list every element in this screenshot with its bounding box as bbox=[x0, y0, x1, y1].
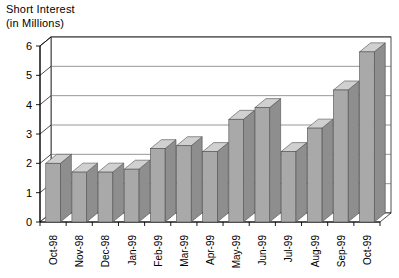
x-axis-tick-label: Dec-98 bbox=[100, 235, 111, 268]
chart-container: Short Interest (in Millions) 0123456Oct-… bbox=[0, 0, 399, 278]
bar-front-face bbox=[333, 90, 348, 222]
bar-group bbox=[333, 81, 359, 222]
bar-front-face bbox=[360, 52, 375, 222]
bar-side-face bbox=[87, 163, 98, 222]
bar-group bbox=[150, 140, 176, 222]
bar-group bbox=[98, 163, 124, 222]
x-axis-tick-label: Apr-99 bbox=[205, 235, 216, 265]
bar-group bbox=[72, 163, 98, 222]
x-axis-tick-label: Sep-99 bbox=[336, 235, 347, 268]
bar-side-face bbox=[113, 163, 124, 222]
bar-side-face bbox=[60, 154, 71, 222]
y-axis-tick-label: 0 bbox=[26, 216, 32, 228]
bar-group bbox=[360, 43, 386, 222]
bar-front-face bbox=[203, 152, 218, 222]
x-axis-tick-label: Jun-99 bbox=[257, 235, 268, 266]
x-axis-tick-label: Aug-99 bbox=[310, 235, 321, 268]
bar-group bbox=[281, 143, 307, 222]
bar-front-face bbox=[98, 172, 113, 222]
x-axis-tick-label: Oct-99 bbox=[362, 235, 373, 265]
bar-front-face bbox=[229, 119, 244, 222]
y-axis-tick-label: 4 bbox=[26, 99, 32, 111]
bar-side-face bbox=[374, 43, 385, 222]
bar-side-face bbox=[296, 143, 307, 222]
bar-group bbox=[255, 99, 281, 222]
x-axis-tick-label: Oct-98 bbox=[48, 235, 59, 265]
bar-front-face bbox=[307, 128, 322, 222]
bar-group bbox=[46, 154, 72, 222]
y-axis-tick-label: 2 bbox=[26, 157, 32, 169]
bar-side-face bbox=[243, 110, 254, 222]
y-axis-tick-label: 5 bbox=[26, 69, 32, 81]
bar-group bbox=[177, 137, 203, 222]
y-axis-tick-label: 6 bbox=[26, 40, 32, 52]
bar-side-face bbox=[191, 137, 202, 222]
bar-group bbox=[124, 160, 150, 222]
y-axis-tick-label: 3 bbox=[26, 128, 32, 140]
bar-front-face bbox=[255, 108, 270, 222]
x-axis-tick-label: Feb-99 bbox=[153, 235, 164, 267]
bar-side-face bbox=[217, 143, 228, 222]
x-axis-tick-label: Nov-98 bbox=[74, 235, 85, 268]
bar-front-face bbox=[281, 152, 296, 222]
x-axis-tick-label: Mar-99 bbox=[179, 235, 190, 267]
bar-chart-plot: 0123456Oct-98Nov-98Dec-98Jan-99Feb-99Mar… bbox=[0, 0, 399, 278]
bar-group bbox=[203, 143, 229, 222]
y-axis-tick-label: 1 bbox=[26, 187, 32, 199]
bar-side-face bbox=[348, 81, 359, 222]
bar-front-face bbox=[150, 149, 165, 222]
bar-front-face bbox=[177, 146, 192, 222]
x-axis-tick-label: May-99 bbox=[231, 235, 242, 269]
bar-group bbox=[307, 119, 333, 222]
bar-group bbox=[229, 110, 255, 222]
bar-front-face bbox=[46, 163, 61, 222]
bar-side-face bbox=[270, 99, 281, 222]
x-axis-tick-label: Jul-99 bbox=[283, 235, 294, 263]
x-axis-tick-label: Jan-99 bbox=[127, 235, 138, 266]
bar-side-face bbox=[322, 119, 333, 222]
bar-side-face bbox=[165, 140, 176, 222]
bar-front-face bbox=[124, 169, 139, 222]
bar-side-face bbox=[139, 160, 150, 222]
bar-front-face bbox=[72, 172, 87, 222]
